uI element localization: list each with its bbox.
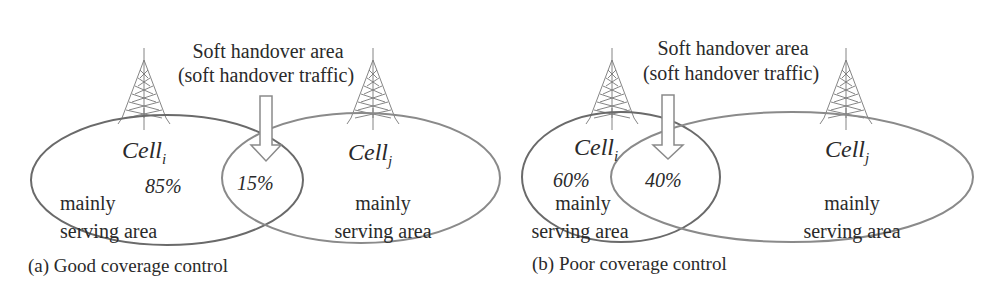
cell-j-area-line2: serving area [334, 220, 431, 243]
overlap-share: 15% [237, 172, 274, 194]
cell-j-area-line1: mainly [355, 192, 411, 215]
coverage-control-figure: Soft handover area (soft handover traffi… [0, 0, 1002, 298]
cell-i-label: Celli [574, 134, 618, 164]
down-arrow-icon [251, 96, 281, 161]
panel-b: Soft handover area (soft handover traffi… [522, 37, 973, 275]
panel-a-caption: (a) Good coverage control [28, 255, 228, 277]
cell-j-tower-icon [347, 48, 399, 130]
cell-i-area-line2: serving area [60, 220, 157, 243]
cell-i-area-line2: serving area [531, 220, 628, 243]
cell-i-tower-icon [586, 48, 638, 130]
overlap-share: 40% [645, 169, 682, 191]
cell-i-label: Celli [122, 137, 166, 167]
cell-i-share: 60% [553, 169, 590, 191]
cell-j-label: Cellj [825, 136, 869, 166]
cell-i-area-line1: mainly [60, 192, 116, 215]
handover-label-line1: Soft handover area [192, 40, 343, 62]
panel-a: Soft handover area (soft handover traffi… [28, 40, 500, 277]
cell-j-area-line2: serving area [803, 220, 900, 243]
handover-label-line1: Soft handover area [657, 37, 808, 59]
cell-j-area-line1: mainly [824, 192, 880, 215]
cell-j-label: Cellj [348, 139, 392, 169]
cell-i-share: 85% [145, 175, 182, 197]
cell-i-area-line1: mainly [555, 192, 611, 215]
handover-label-line2: (soft handover traffic) [178, 64, 354, 87]
handover-label-line2: (soft handover traffic) [643, 62, 819, 85]
panel-b-caption: (b) Poor coverage control [532, 253, 727, 275]
